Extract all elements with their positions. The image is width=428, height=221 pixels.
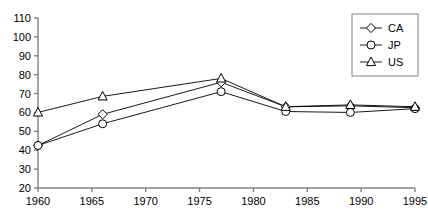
y-tick-label: 80 bbox=[19, 69, 31, 81]
x-tick-label: 1980 bbox=[241, 195, 265, 207]
y-tick-label: 40 bbox=[19, 144, 31, 156]
y-tick-label: 20 bbox=[19, 182, 31, 194]
x-tick-label: 1995 bbox=[403, 195, 427, 207]
y-tick-label: 90 bbox=[19, 50, 31, 62]
legend-label-us: US bbox=[388, 56, 403, 68]
x-tick-label: 1990 bbox=[349, 195, 373, 207]
legend-label-jp: JP bbox=[388, 39, 401, 51]
x-tick-label: 1985 bbox=[295, 195, 319, 207]
data-point-jp-1989 bbox=[346, 108, 354, 116]
data-point-jp-1977 bbox=[217, 88, 225, 96]
data-point-jp-1966 bbox=[99, 120, 107, 128]
legend-label-ca: CA bbox=[388, 22, 404, 34]
y-tick-label: 110 bbox=[13, 12, 31, 24]
y-tick-label: 50 bbox=[19, 125, 31, 137]
line-chart: 2030405060708090100110196019651970197519… bbox=[0, 0, 428, 221]
y-tick-label: 60 bbox=[19, 106, 31, 118]
x-tick-label: 1960 bbox=[26, 195, 50, 207]
x-tick-label: 1975 bbox=[187, 195, 211, 207]
legend-marker-jp bbox=[367, 41, 375, 49]
y-tick-label: 100 bbox=[13, 31, 31, 43]
y-tick-label: 30 bbox=[19, 163, 31, 175]
data-point-jp-1960 bbox=[34, 142, 42, 150]
y-tick-label: 70 bbox=[19, 88, 31, 100]
series-line-us bbox=[38, 78, 415, 112]
series-line-ca bbox=[38, 82, 415, 145]
x-tick-label: 1965 bbox=[80, 195, 104, 207]
x-tick-label: 1970 bbox=[133, 195, 157, 207]
chart-canvas: 2030405060708090100110196019651970197519… bbox=[0, 0, 428, 221]
data-point-us-1977 bbox=[217, 73, 226, 82]
data-point-ca-1966 bbox=[98, 110, 107, 119]
